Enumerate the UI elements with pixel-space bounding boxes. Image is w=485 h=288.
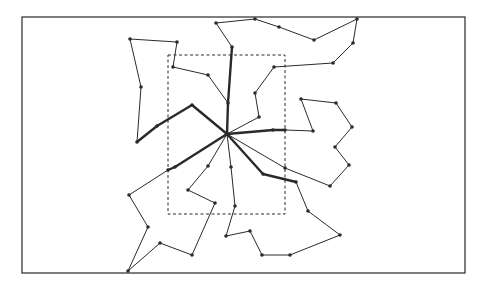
node-dot	[158, 241, 162, 245]
node-dot	[214, 21, 218, 25]
node-dot	[206, 73, 210, 77]
node-dot	[328, 184, 332, 188]
node-dot	[175, 40, 179, 44]
node-dot	[186, 188, 190, 192]
node-dot	[190, 103, 194, 107]
node-dot	[155, 124, 159, 128]
node-dot	[127, 193, 131, 197]
node-dot	[311, 129, 315, 133]
node-dot	[272, 65, 276, 69]
node-dot	[226, 101, 230, 105]
node-dot	[213, 201, 217, 205]
node-dot	[224, 234, 228, 238]
node-dot	[257, 115, 261, 119]
route-nodes	[126, 17, 359, 273]
node-dot	[331, 61, 335, 65]
node-dot	[283, 166, 287, 170]
node-dot	[126, 269, 130, 273]
node-dot	[334, 101, 338, 105]
node-dot	[260, 253, 264, 257]
route-line	[227, 99, 352, 186]
node-dot	[128, 37, 132, 41]
node-dot	[306, 209, 310, 213]
node-dot	[355, 17, 359, 21]
node-dot	[253, 17, 257, 21]
hub-dot	[225, 132, 229, 136]
node-dot	[347, 163, 351, 167]
node-dot	[229, 165, 233, 169]
node-dot	[261, 172, 265, 176]
hub-node	[225, 132, 229, 136]
diagram-svg	[0, 0, 485, 288]
node-dot	[248, 229, 252, 233]
depot-edge	[227, 47, 232, 134]
node-dot	[233, 204, 237, 208]
node-dot	[171, 65, 175, 69]
node-dot	[350, 125, 354, 129]
routes	[128, 19, 357, 271]
node-dot	[312, 38, 316, 42]
node-dot	[139, 85, 143, 89]
depot-edge	[168, 134, 227, 170]
node-dot	[271, 128, 275, 132]
node-dot	[253, 91, 257, 95]
frame-border	[22, 17, 465, 273]
node-dot	[333, 145, 337, 149]
node-dot	[277, 25, 281, 29]
node-dot	[283, 128, 287, 132]
node-dot	[230, 45, 234, 49]
node-dot	[351, 41, 355, 45]
outer-frame	[22, 17, 465, 273]
depot-edge	[227, 130, 285, 134]
node-dot	[206, 164, 210, 168]
route-line	[216, 19, 357, 134]
node-dot	[190, 253, 194, 257]
node-dot	[146, 225, 150, 229]
node-dot	[299, 97, 303, 101]
depot-edges	[137, 47, 296, 182]
routing-diagram	[0, 0, 485, 288]
node-dot	[294, 180, 298, 184]
route-line	[130, 39, 228, 142]
depot-edge	[137, 105, 227, 142]
route-line	[128, 134, 227, 271]
node-dot	[173, 165, 177, 169]
node-dot	[288, 253, 292, 257]
node-dot	[338, 233, 342, 237]
node-dot	[166, 168, 170, 172]
node-dot	[135, 140, 139, 144]
